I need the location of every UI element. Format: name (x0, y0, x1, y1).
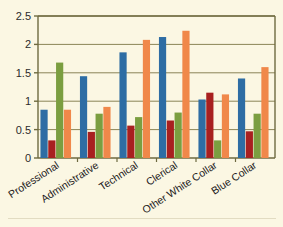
bar (48, 140, 55, 158)
bar (222, 94, 229, 158)
bar (40, 110, 47, 158)
bottom-divider (8, 218, 276, 219)
bar (246, 131, 253, 158)
bar (119, 52, 126, 158)
y-tick-label: 2.5 (16, 10, 31, 22)
bar (175, 113, 182, 158)
y-tick-label: 1.5 (16, 67, 31, 79)
y-tick-label: 2 (25, 38, 31, 50)
y-tick-label: 0 (25, 152, 31, 164)
bar (80, 76, 87, 158)
bar (103, 107, 110, 158)
bar (198, 100, 205, 159)
bar (206, 93, 213, 158)
bar (96, 114, 103, 158)
bar (159, 37, 166, 158)
bar (143, 40, 150, 158)
bar (214, 140, 221, 158)
chart-canvas: 00.511.522.5 ProfessionalAdministrativeT… (0, 0, 283, 227)
bar (64, 110, 71, 158)
y-tick-label: 1 (25, 95, 31, 107)
bar (254, 114, 261, 158)
bar (167, 121, 174, 158)
bar (238, 78, 245, 158)
bar-chart: 00.511.522.5 ProfessionalAdministrativeT… (0, 0, 283, 227)
bar (88, 132, 95, 158)
bar (56, 63, 63, 158)
bar (127, 126, 134, 158)
y-tick-label: 0.5 (16, 124, 31, 136)
bar (182, 31, 189, 158)
bar (135, 117, 142, 158)
bar (261, 67, 268, 158)
